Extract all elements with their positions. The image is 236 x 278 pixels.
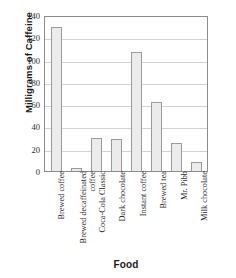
y-axis-tick-label: 60 bbox=[14, 101, 40, 110]
y-axis-tick-label: 20 bbox=[14, 145, 40, 154]
y-axis-tick-label: 100 bbox=[14, 56, 40, 65]
bar bbox=[51, 27, 62, 171]
bar-chart-figure: Milligrams of Caffeine 02040608010012014… bbox=[0, 0, 236, 278]
x-axis-tick-label: Dark chocolate bbox=[119, 171, 139, 249]
bar bbox=[111, 139, 122, 171]
x-axis-tick-label: Brewed tea bbox=[160, 171, 180, 249]
bar-slot bbox=[86, 17, 106, 171]
x-axis-tick-labels: Brewed coffeeBrewed decaffeinated coffee… bbox=[44, 173, 208, 251]
y-axis-tick-labels: 020406080100120140 bbox=[14, 16, 40, 172]
y-axis-tick-label: 140 bbox=[14, 12, 40, 21]
y-axis-tick-label: 80 bbox=[14, 79, 40, 88]
bar-slot bbox=[126, 17, 146, 171]
bar bbox=[191, 162, 202, 171]
bar-slot bbox=[146, 17, 166, 171]
x-axis-title: Food bbox=[44, 259, 208, 270]
x-axis-tick-label: Instant coffee bbox=[140, 171, 160, 249]
y-axis-tick-label: 0 bbox=[14, 168, 40, 177]
bar bbox=[171, 143, 182, 171]
bar-slot bbox=[66, 17, 86, 171]
bar-slot bbox=[186, 17, 206, 171]
bar-slot bbox=[46, 17, 66, 171]
x-axis-tick-label: Brewed decaffeinated coffee bbox=[80, 171, 100, 249]
bar-slot bbox=[106, 17, 126, 171]
bars-group bbox=[45, 17, 207, 171]
x-axis-tick-label: Milk chocolate bbox=[201, 171, 221, 249]
bar bbox=[91, 138, 102, 171]
y-axis-tick-label: 40 bbox=[14, 123, 40, 132]
x-axis-tick-label: Mr. Pibb bbox=[181, 171, 201, 249]
bar-slot bbox=[166, 17, 186, 171]
x-axis-tick-label: Coca-Cola Classic bbox=[99, 171, 119, 249]
plot-area bbox=[44, 16, 208, 172]
x-axis-tick-label: Brewed coffee bbox=[58, 171, 78, 249]
bar bbox=[131, 52, 142, 171]
y-axis-tick-label: 120 bbox=[14, 34, 40, 43]
bar bbox=[151, 102, 162, 171]
